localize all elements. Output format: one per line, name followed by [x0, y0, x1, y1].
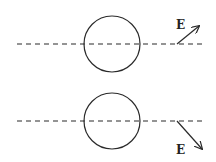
bottom-panel: E [17, 93, 206, 157]
top-panel: E [17, 16, 206, 72]
e-field-label: E [176, 18, 185, 32]
polarization-diagram: E E [0, 0, 216, 162]
e-field-label: E [176, 143, 185, 157]
